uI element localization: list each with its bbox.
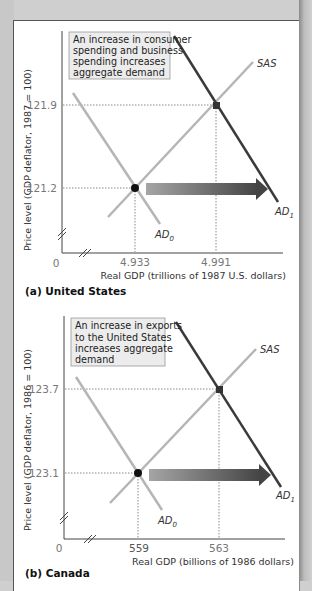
ad1-label: AD1 (274, 206, 294, 220)
panel-title-us: (a) United States (25, 285, 126, 297)
annotation-box: An increase in consumer spending and bus… (69, 32, 192, 79)
ad0-curve (76, 377, 162, 510)
y-tick-121-9: 121.9 (27, 99, 57, 111)
ad0-label: AD0 (154, 229, 175, 243)
initial-equilibrium-point (134, 469, 142, 477)
y-tick-121-2: 121.2 (27, 182, 57, 194)
y-tick-123-7: 123.7 (29, 383, 59, 395)
svg-text:An increase in exports: An increase in exports (75, 320, 182, 331)
svg-text:aggregate demand: aggregate demand (73, 67, 165, 78)
x-axis-label: Real GDP (billions of 1986 dollars) (132, 556, 294, 567)
ad0-curve (73, 93, 160, 224)
ad1-label: AD1 (275, 490, 295, 504)
x-tick-559: 559 (129, 542, 149, 554)
y-axis-label: Price level (GDP deflator, 1986 = 100) (22, 349, 33, 531)
svg-text:to the United States: to the United States (75, 332, 171, 343)
svg-text:increases aggregate: increases aggregate (75, 343, 173, 354)
svg-text:An increase in consumer: An increase in consumer (73, 34, 192, 45)
ad0-label: AD0 (157, 515, 178, 529)
y-tick-123-1: 123.1 (29, 467, 59, 479)
new-equilibrium-point (216, 386, 223, 393)
sas-label: SAS (257, 58, 277, 69)
sas-label: SAS (260, 344, 280, 355)
initial-equilibrium-point (131, 184, 139, 192)
panel-title-canada: (b) Canada (25, 567, 90, 579)
x-tick-4-933: 4.933 (120, 256, 150, 268)
y-axis-label: Price level (GDP deflator, 1987 = 100) (22, 69, 33, 251)
origin-label: 0 (53, 257, 60, 269)
svg-text:demand: demand (75, 354, 114, 365)
annotation-box: An increase in exports to the United Sta… (71, 318, 182, 366)
new-equilibrium-point (213, 102, 220, 109)
x-tick-4-991: 4.991 (201, 256, 231, 268)
x-tick-563: 563 (209, 542, 229, 554)
chart-united-states: Price level (GDP deflator, 1987 = 100) (22, 31, 294, 297)
svg-text:spending and business: spending and business (73, 45, 183, 56)
svg-text:spending increases: spending increases (73, 56, 165, 67)
origin-label: 0 (56, 542, 63, 554)
chart-canada: Price level (GDP deflator, 1986 = 100) A… (22, 316, 295, 579)
shift-arrow (149, 464, 271, 486)
x-axis-label: Real GDP (trillions of 1987 U.S. dollars… (100, 270, 286, 281)
shift-arrow (146, 178, 268, 200)
